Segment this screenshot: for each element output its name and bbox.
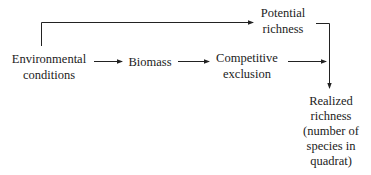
node-label: Competitive [210, 52, 284, 65]
node-realized-richness: Realized richness (number of species in … [298, 94, 364, 169]
node-biomass: Biomass [124, 56, 176, 69]
node-label: Biomass [124, 56, 176, 69]
node-label: Potential [252, 7, 314, 20]
arrow-env-to-potential [42, 23, 254, 47]
node-label: conditions [6, 69, 92, 82]
node-label: Realized [298, 94, 364, 109]
arrow-potential-to-realized [316, 24, 330, 89]
node-label: species in [298, 139, 364, 154]
node-label: richness [252, 23, 314, 36]
node-competitive-exclusion: Competitive exclusion [210, 52, 284, 81]
node-label: quadrat) [298, 154, 364, 169]
node-label: richness [298, 109, 364, 124]
node-potential-richness: Potential richness [252, 7, 314, 36]
node-label: exclusion [210, 68, 284, 81]
node-environmental-conditions: Environmental conditions [6, 53, 92, 82]
node-label: (number of [298, 124, 364, 139]
node-label: Environmental [6, 53, 92, 66]
